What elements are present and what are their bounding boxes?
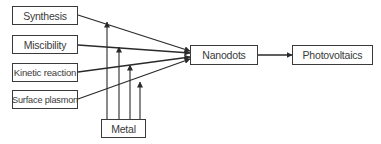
node-label: Surface plasmon	[12, 95, 78, 105]
node-metal: Metal	[101, 119, 146, 138]
node-label: Kinetic reaction	[14, 67, 76, 78]
flow-diagram: Synthesis Miscibility Kinetic reaction S…	[0, 0, 381, 144]
node-label: Miscibility	[24, 39, 67, 51]
node-synthesis: Synthesis	[12, 6, 78, 25]
node-photovoltaics: Photovoltaics	[292, 45, 373, 65]
node-label: Synthesis	[23, 10, 67, 22]
node-miscibility: Miscibility	[12, 35, 78, 54]
node-label: Metal	[111, 123, 136, 135]
node-surface-plasmon: Surface plasmon	[12, 90, 78, 109]
node-kinetic-reaction: Kinetic reaction	[12, 63, 78, 82]
node-label: Nanodots	[202, 49, 245, 61]
node-nanodots: Nanodots	[190, 45, 258, 65]
node-label: Photovoltaics	[303, 49, 363, 61]
